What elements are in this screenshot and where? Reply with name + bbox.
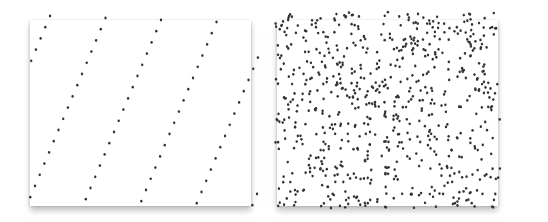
random-dot: [406, 13, 408, 16]
random-dot: [422, 16, 424, 19]
random-dot: [385, 206, 387, 209]
random-dot: [408, 16, 410, 19]
random-dot: [499, 167, 501, 170]
random-dot: [469, 13, 471, 16]
lattice-dot: [251, 204, 253, 207]
random-dot: [463, 14, 465, 17]
lattice-dot: [104, 17, 106, 20]
lattice-panel: Regular lattice of dots arranged in para…: [30, 20, 251, 206]
lattice-dot: [49, 15, 51, 18]
random-dot: [344, 16, 346, 19]
random-dot: [288, 15, 290, 18]
random-dot: [343, 14, 345, 17]
random-dot: [398, 15, 400, 18]
random-dot: [384, 14, 386, 17]
random-dot: [289, 13, 291, 16]
random-dot: [468, 12, 470, 15]
lattice-dot: [252, 67, 254, 70]
random-dot: [417, 13, 419, 16]
random-dot: [498, 118, 500, 121]
random-dot: [351, 14, 353, 17]
random-panel: Randomly scattered dots: [277, 20, 498, 206]
lattice-dot: [257, 56, 259, 59]
random-dot: [387, 11, 389, 14]
random-dot: [358, 15, 360, 18]
random-dot: [348, 11, 350, 14]
random-dot: [330, 207, 332, 210]
random-dot: [344, 206, 346, 209]
random-dot: [492, 206, 494, 209]
lattice-dot: [256, 193, 258, 196]
random-dot: [493, 12, 495, 15]
random-dot: [436, 15, 438, 18]
random-dot: [291, 15, 293, 18]
random-dot: [352, 14, 354, 17]
random-dot: [413, 206, 415, 209]
random-dot: [335, 13, 337, 16]
random-dot: [345, 15, 347, 18]
